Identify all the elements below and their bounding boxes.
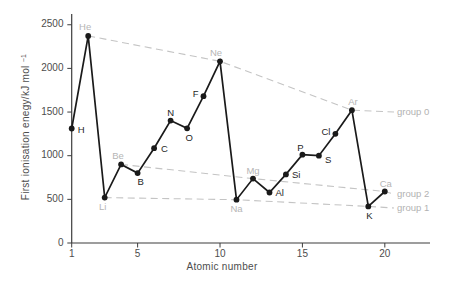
ionisation-energy-chart: group 0group 2group 10500100015002000250… [0, 0, 458, 286]
data-point-Mg [250, 176, 256, 182]
x-tick-label-15: 15 [297, 248, 309, 259]
element-label-S: S [325, 154, 331, 165]
data-point-N [168, 118, 174, 124]
element-label-Si: Si [292, 169, 300, 180]
element-label-Ca: Ca [380, 178, 393, 189]
data-point-Ca [382, 189, 388, 195]
element-label-Mg: Mg [246, 165, 259, 176]
element-label-B: B [137, 176, 143, 187]
element-label-Ar: Ar [348, 96, 358, 107]
element-label-H: H [78, 124, 85, 135]
data-point-S [316, 153, 322, 159]
data-point-He [85, 33, 91, 39]
x-tick-label-20: 20 [379, 248, 391, 259]
y-tick-label-2500: 2500 [41, 18, 64, 29]
element-label-P: P [297, 142, 303, 153]
x-tick-label-1: 1 [69, 248, 75, 259]
element-label-O: O [185, 132, 192, 143]
data-point-Ne [217, 58, 223, 64]
data-point-C [151, 145, 157, 151]
element-label-N: N [167, 107, 174, 118]
element-label-F: F [193, 88, 199, 99]
x-tick-label-10: 10 [214, 248, 226, 259]
ionisation-energy-figure: group 0group 2group 10500100015002000250… [0, 0, 458, 286]
group-label-group-2: group 2 [397, 188, 429, 199]
data-point-Al [267, 190, 273, 196]
element-label-Na: Na [230, 203, 243, 214]
y-axis-title: First ionisation enegy/kJ mol −1 [20, 54, 31, 201]
x-axis-title: Atomic number [72, 261, 372, 272]
y-tick-label-0: 0 [58, 237, 64, 248]
x-tick-label-5: 5 [135, 248, 141, 259]
y-axis-title-superscript: −1 [20, 54, 27, 63]
y-tick-label-2000: 2000 [41, 62, 64, 73]
element-label-Cl: Cl [321, 126, 330, 137]
element-label-Ne: Ne [210, 47, 222, 58]
data-point-O [184, 125, 190, 131]
element-label-C: C [161, 143, 168, 154]
element-label-Be: Be [112, 150, 124, 161]
data-point-Cl [333, 131, 339, 137]
y-axis-title-text: First ionisation enegy/kJ mol [20, 65, 31, 200]
element-label-He: He [79, 21, 91, 32]
element-label-Al: Al [276, 187, 284, 198]
data-point-Si [283, 172, 289, 178]
data-point-Be [118, 162, 124, 168]
data-point-K [365, 204, 371, 210]
y-tick-label-500: 500 [47, 193, 64, 204]
data-point-H [69, 126, 75, 132]
group-label-group-0: group 0 [397, 106, 429, 117]
y-tick-label-1500: 1500 [41, 106, 64, 117]
y-tick-label-1000: 1000 [41, 149, 64, 160]
data-point-Ar [349, 107, 355, 113]
element-label-Li: Li [99, 201, 106, 212]
element-label-K: K [366, 210, 373, 221]
group-line-group-1 [105, 198, 394, 208]
ionisation-energy-line [72, 36, 385, 207]
data-point-F [201, 93, 207, 99]
group-label-group-1: group 1 [397, 202, 429, 213]
